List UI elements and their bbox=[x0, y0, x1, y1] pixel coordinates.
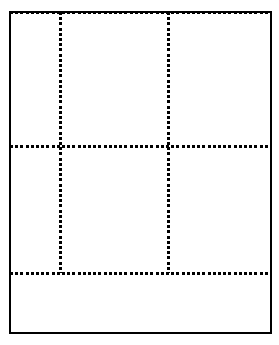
cell-r2c3[interactable] bbox=[170, 148, 269, 272]
cell-r2c2[interactable] bbox=[62, 148, 167, 272]
cell-r1c3[interactable] bbox=[170, 14, 269, 145]
footer-band bbox=[11, 275, 269, 331]
layout-guide-canvas bbox=[0, 0, 279, 345]
cell-r2c1[interactable] bbox=[11, 148, 59, 272]
frame-bottom-edge bbox=[9, 332, 272, 334]
cell-r1c2[interactable] bbox=[62, 14, 167, 145]
frame-right-edge bbox=[270, 11, 272, 334]
cell-r1c1[interactable] bbox=[11, 14, 59, 145]
